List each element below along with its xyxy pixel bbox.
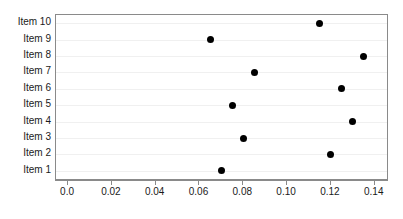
x-axis-tick: [155, 180, 156, 185]
x-axis-tick: [198, 180, 199, 185]
y-axis-label: Item 7: [1, 66, 51, 76]
gridline: [56, 154, 387, 155]
x-axis: 0.00.020.040.060.080.100.120.14: [55, 180, 388, 210]
data-point: [316, 20, 323, 27]
y-axis-label: Item 6: [1, 83, 51, 93]
data-point: [349, 118, 356, 125]
y-axis-label: Item 8: [1, 50, 51, 60]
x-axis-tick-label: 0.06: [178, 186, 218, 198]
x-axis-tick: [111, 180, 112, 185]
x-axis-tick-label: 0.0: [47, 186, 87, 198]
data-point: [207, 36, 214, 43]
gridline: [56, 56, 387, 57]
x-axis-spine: [55, 180, 388, 181]
x-axis-tick-label: 0.02: [91, 186, 131, 198]
x-axis-tick: [286, 180, 287, 185]
data-point: [251, 69, 258, 76]
x-axis-tick-label: 0.08: [222, 186, 262, 198]
gridline: [56, 138, 387, 139]
data-point: [218, 167, 225, 174]
x-axis-tick-label: 0.14: [354, 186, 394, 198]
y-axis-label: Item 2: [1, 148, 51, 158]
y-axis-label: Item 3: [1, 132, 51, 142]
x-axis-tick: [242, 180, 243, 185]
x-axis-tick-label: 0.10: [266, 186, 306, 198]
gridline: [56, 105, 387, 106]
y-axis-label: Item 1: [1, 165, 51, 175]
gridline: [56, 23, 387, 24]
dot-plot-figure: Item 10Item 9Item 8Item 7Item 6Item 5Ite…: [0, 0, 403, 219]
plot-area: [55, 14, 388, 180]
y-axis-label: Item 9: [1, 34, 51, 44]
y-axis-label: Item 5: [1, 99, 51, 109]
data-point: [327, 151, 334, 158]
x-axis-tick-label: 0.04: [135, 186, 175, 198]
x-axis-tick-label: 0.12: [310, 186, 350, 198]
y-axis-tick-labels: Item 10Item 9Item 8Item 7Item 6Item 5Ite…: [0, 14, 51, 180]
y-axis-label: Item 4: [1, 116, 51, 126]
gridline: [56, 122, 387, 123]
x-axis-tick: [330, 180, 331, 185]
data-point: [240, 135, 247, 142]
data-point: [338, 85, 345, 92]
x-axis-tick: [374, 180, 375, 185]
gridline: [56, 40, 387, 41]
data-point: [229, 102, 236, 109]
data-point: [360, 53, 367, 60]
gridline: [56, 72, 387, 73]
gridline: [56, 89, 387, 90]
y-axis-label: Item 10: [1, 17, 51, 27]
x-axis-tick: [67, 180, 68, 185]
